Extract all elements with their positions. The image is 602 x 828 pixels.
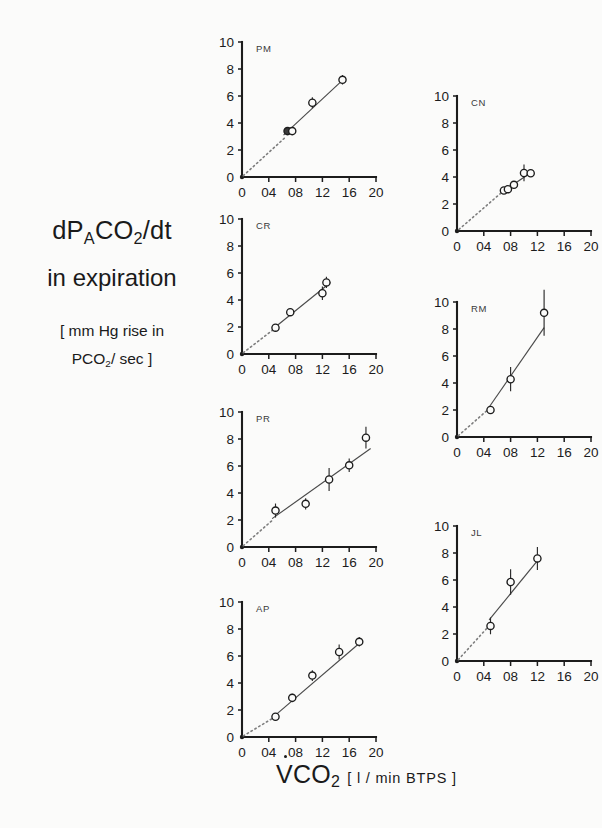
y-tick-label: 6 xyxy=(441,143,449,158)
y-tick-label: 4 xyxy=(441,600,449,615)
subject-label: AP xyxy=(256,603,270,614)
data-point xyxy=(339,76,346,83)
data-point xyxy=(326,476,333,483)
x-tick-label: 12 xyxy=(315,362,330,377)
y-tick-label: 2 xyxy=(226,143,234,158)
x-tick-label: 0 xyxy=(453,669,461,684)
data-point xyxy=(534,555,541,562)
panel-pr: 024681000408121620PR xyxy=(196,398,380,569)
data-point xyxy=(346,462,353,469)
subject-label: CN xyxy=(471,97,486,108)
y-tick-label: 8 xyxy=(226,239,234,254)
x-tick-label: 12 xyxy=(315,185,330,200)
data-point xyxy=(272,713,279,720)
x-tick-label: 16 xyxy=(342,745,357,760)
y-tick-label: 0 xyxy=(226,170,234,185)
data-point xyxy=(487,406,494,413)
y-tick-label: 6 xyxy=(441,573,449,588)
y-tick-label: 2 xyxy=(226,320,234,335)
y-tick-label: 6 xyxy=(441,349,449,364)
data-point xyxy=(541,309,548,316)
x-tick-label: 08 xyxy=(503,669,518,684)
y-tick-label: 8 xyxy=(441,546,449,561)
panel-rm: 024681000408121620RM xyxy=(411,288,595,459)
y-tick-label: 6 xyxy=(226,89,234,104)
subject-label: CR xyxy=(256,220,271,231)
x-tick-label: 12 xyxy=(315,555,330,570)
x-tick-label: 0 xyxy=(453,239,461,254)
x-tick-label: 04 xyxy=(476,669,492,684)
x-tick-label: 08 xyxy=(503,239,518,254)
x-tick-label: 12 xyxy=(530,445,545,460)
x-axis-units: [ l / min BTPS ] xyxy=(347,770,457,786)
x-tick-label: 08 xyxy=(288,555,303,570)
x-tick-label: 12 xyxy=(315,745,330,760)
y-tick-label: 2 xyxy=(441,403,449,418)
subject-label: JL xyxy=(471,527,482,538)
y-axis-title: dPACO2/dt in expiration [ mm Hg rise in … xyxy=(14,216,210,368)
x-tick-label: 20 xyxy=(583,669,598,684)
panel-jl: 024681000408121620JL xyxy=(411,512,595,683)
data-point xyxy=(507,578,514,585)
subject-label: PR xyxy=(256,413,270,424)
y-tick-label: 0 xyxy=(441,654,449,669)
x-tick-label: 20 xyxy=(368,745,383,760)
x-tick-label: 04 xyxy=(261,745,277,760)
x-tick-label: 08 xyxy=(288,185,303,200)
data-point xyxy=(487,622,494,629)
y-tick-label: 6 xyxy=(226,459,234,474)
data-point xyxy=(323,279,330,286)
x-tick-label: 04 xyxy=(476,445,492,460)
x-tick-label: 08 xyxy=(288,362,303,377)
x-tick-label: 16 xyxy=(342,185,357,200)
x-tick-label: 0 xyxy=(238,745,246,760)
x-tick-label: 04 xyxy=(261,362,277,377)
x-tick-label: 0 xyxy=(238,555,246,570)
data-point xyxy=(336,648,343,655)
y-tick-label: 8 xyxy=(226,432,234,447)
y-tick-label: 2 xyxy=(441,197,449,212)
data-point xyxy=(527,170,534,177)
y-tick-label: 0 xyxy=(226,540,234,555)
panel-pm: 024681000408121620PM xyxy=(196,28,380,199)
y-tick-label: 4 xyxy=(441,170,449,185)
y-axis-title-line2: in expiration xyxy=(14,264,210,292)
data-point xyxy=(287,309,294,316)
y-tick-label: 10 xyxy=(219,35,234,50)
x-tick-label: 0 xyxy=(453,445,461,460)
data-point xyxy=(309,99,316,106)
y-tick-label: 2 xyxy=(441,627,449,642)
x-tick-label: 08 xyxy=(288,745,303,760)
x-tick-label: 16 xyxy=(342,362,357,377)
x-tick-label: 08 xyxy=(503,445,518,460)
figure-canvas: dPACO2/dt in expiration [ mm Hg rise in … xyxy=(0,0,602,828)
data-point xyxy=(302,500,309,507)
subject-label: RM xyxy=(471,303,487,314)
x-tick-label: 20 xyxy=(583,239,598,254)
y-tick-label: 4 xyxy=(226,293,234,308)
x-tick-label: 04 xyxy=(476,239,492,254)
panel-cn: 024681000408121620CN xyxy=(411,82,595,253)
x-tick-label: 0 xyxy=(238,362,246,377)
x-tick-label: 04 xyxy=(261,185,277,200)
data-point xyxy=(319,290,326,297)
x-tick-label: 12 xyxy=(530,669,545,684)
data-point xyxy=(362,434,369,441)
y-axis-units-line2: PCO2/ sec ] xyxy=(14,350,210,369)
data-point xyxy=(272,507,279,514)
y-tick-label: 10 xyxy=(434,295,449,310)
data-point xyxy=(510,181,517,188)
x-tick-label: 16 xyxy=(557,445,572,460)
y-tick-label: 10 xyxy=(219,405,234,420)
y-axis-title-line1: dPACO2/dt xyxy=(14,216,210,248)
x-tick-label: 16 xyxy=(557,669,572,684)
y-tick-label: 0 xyxy=(441,430,449,445)
y-tick-label: 0 xyxy=(226,730,234,745)
y-tick-label: 10 xyxy=(434,519,449,534)
y-tick-label: 8 xyxy=(441,116,449,131)
x-axis-title: VCO2[ l / min BTPS ] xyxy=(276,760,457,791)
data-point xyxy=(356,638,363,645)
y-tick-label: 0 xyxy=(226,347,234,362)
data-point xyxy=(289,128,296,135)
x-tick-label: 20 xyxy=(368,555,383,570)
